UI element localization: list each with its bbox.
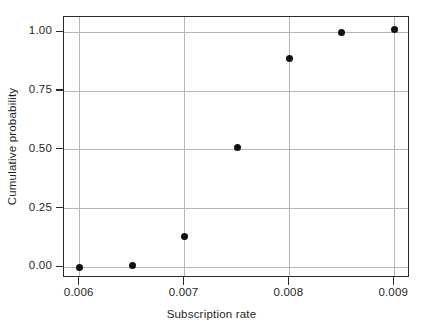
y-axis-title: Cumulative probability bbox=[4, 16, 20, 277]
x-axis-tick bbox=[78, 277, 79, 285]
gridline-vertical bbox=[394, 17, 395, 276]
data-point bbox=[76, 264, 83, 271]
plot-area bbox=[63, 16, 409, 277]
x-axis-tick bbox=[183, 277, 184, 285]
x-axis-tick-label: 0.008 bbox=[274, 286, 304, 298]
x-axis-tick-label: 0.009 bbox=[378, 286, 408, 298]
gridline-horizontal bbox=[64, 267, 408, 268]
data-point bbox=[286, 55, 293, 62]
y-axis-tick-label: 0.75 bbox=[29, 83, 52, 95]
gridline-horizontal bbox=[64, 208, 408, 209]
gridline-horizontal bbox=[64, 91, 408, 92]
gridline-horizontal bbox=[64, 32, 408, 33]
x-axis-tick-label: 0.007 bbox=[169, 286, 199, 298]
data-point bbox=[129, 262, 136, 269]
x-axis-title: Subscription rate bbox=[0, 308, 423, 320]
chart-figure: Cumulative probability 0.000.250.500.751… bbox=[0, 0, 423, 329]
y-axis-tick-label: 0.25 bbox=[29, 201, 52, 213]
caption-remnant bbox=[184, 0, 304, 5]
data-point bbox=[181, 233, 188, 240]
y-axis-tick-label: 1.00 bbox=[29, 24, 52, 36]
gridline-vertical bbox=[79, 17, 80, 276]
x-axis-tick-label: 0.006 bbox=[64, 286, 94, 298]
x-axis-tick bbox=[288, 277, 289, 285]
data-point bbox=[234, 144, 241, 151]
x-axis-tick bbox=[393, 277, 394, 285]
y-axis-tick-label: 0.00 bbox=[29, 259, 52, 271]
y-axis-tick-label: 0.50 bbox=[29, 142, 52, 154]
data-point bbox=[338, 29, 345, 36]
